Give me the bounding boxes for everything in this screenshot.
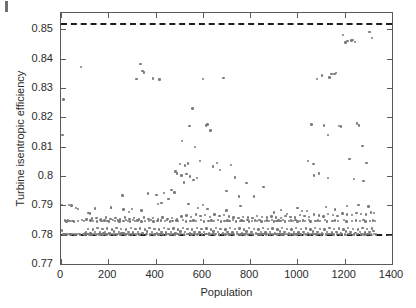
scatter-point (194, 146, 196, 148)
scatter-point (300, 228, 302, 230)
scatter-point (229, 227, 231, 229)
scatter-point (200, 219, 202, 221)
scatter-point (364, 220, 366, 222)
scatter-point (293, 231, 295, 233)
scatter-point (181, 140, 183, 142)
scatter-point (351, 220, 353, 222)
scatter-point (340, 125, 342, 127)
scatter-point (144, 220, 146, 222)
scatter-point (351, 214, 353, 216)
scatter-point (368, 31, 370, 33)
scatter-point (306, 210, 308, 212)
scatter-point (147, 192, 149, 194)
scatter-point (228, 220, 230, 222)
scatter-point (89, 232, 91, 234)
scatter-point (195, 213, 197, 215)
scatter-point (166, 218, 168, 220)
scatter-point (202, 204, 204, 206)
x-tick-mark (250, 259, 251, 264)
scatter-point (138, 233, 140, 235)
scatter-point (347, 227, 349, 229)
scatter-point (209, 129, 211, 131)
scatter-point (106, 227, 108, 229)
scatter-point (134, 228, 136, 230)
scatter-point (223, 214, 225, 216)
scatter-point (367, 205, 369, 207)
scatter-point (251, 220, 253, 222)
y-axis-tick-labels: 0.770.780.790.80.810.820.830.840.85 (0, 12, 56, 265)
scatter-point (171, 217, 173, 219)
scatter-point (96, 220, 98, 222)
scatter-point (284, 220, 286, 222)
scatter-point (89, 212, 91, 214)
scatter-point (364, 231, 366, 233)
scatter-point (77, 208, 79, 210)
y-tick-label: 0.85 (32, 22, 53, 34)
scatter-point (128, 218, 130, 220)
scatter-point (251, 217, 253, 219)
scatter-point (129, 220, 131, 222)
scatter-point (234, 228, 236, 230)
x-tick-mark-top (345, 13, 346, 18)
scatter-point (139, 63, 141, 65)
scatter-point (261, 216, 263, 218)
scatter-point (308, 216, 310, 218)
scatter-point (171, 220, 173, 222)
scatter-point (337, 220, 339, 222)
scatter-point (303, 215, 305, 217)
scatter-point (242, 216, 244, 218)
scatter-point (213, 213, 215, 215)
scatter-point (192, 179, 194, 181)
scatter-point (167, 228, 169, 230)
scatter-point (121, 194, 123, 196)
scatter-point (335, 231, 337, 233)
scatter-point (334, 208, 336, 210)
scatter-point (124, 216, 126, 218)
x-tick-label: 1400 (379, 268, 403, 280)
scatter-point (162, 233, 164, 235)
scatter-point (327, 134, 329, 136)
scatter-point (313, 174, 315, 176)
scatter-point (87, 228, 89, 230)
scatter-point (135, 78, 137, 80)
y-tick-mark-right (387, 117, 392, 118)
scatter-point (182, 219, 184, 221)
scatter-point (160, 231, 162, 233)
scatter-point (286, 228, 288, 230)
scatter-point (157, 203, 159, 205)
scatter-point (296, 207, 298, 209)
scatter-point (220, 220, 222, 222)
scatter-point (197, 207, 199, 209)
scatter-point (345, 220, 347, 222)
scatter-point (328, 76, 330, 78)
scatter-point (262, 227, 264, 229)
y-tick-label: 0.77 (32, 257, 53, 269)
x-tick-label: 200 (98, 268, 116, 280)
x-tick-mark-top (203, 13, 204, 18)
scatter-point (352, 228, 354, 230)
scatter-point (193, 231, 195, 233)
scatter-point (99, 231, 101, 233)
scatter-point (205, 227, 207, 229)
scatter-point (120, 228, 122, 230)
scatter-point (204, 214, 206, 216)
scatter-point (196, 177, 198, 179)
scatter-point (130, 227, 132, 229)
scatter-point (155, 194, 157, 196)
scatter-point (147, 218, 149, 220)
scatter-point (355, 212, 357, 214)
y-tick-label: 0.84 (32, 52, 53, 64)
x-tick-mark (156, 259, 157, 264)
scatter-point (176, 172, 178, 174)
scatter-point (70, 204, 72, 206)
scatter-point (140, 220, 142, 222)
y-tick-mark-right (387, 147, 392, 148)
scatter-point (91, 217, 93, 219)
x-tick-mark-top (156, 13, 157, 18)
scatter-point (160, 219, 162, 221)
scatter-point (345, 230, 347, 232)
scatter-point (304, 220, 306, 222)
scatter-point (301, 210, 303, 212)
scatter-point (366, 228, 368, 230)
y-tick-label: 0.79 (32, 198, 53, 210)
